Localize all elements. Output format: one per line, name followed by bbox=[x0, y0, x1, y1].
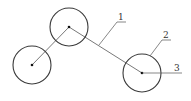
center-dot-left bbox=[31, 64, 34, 67]
label-1: 1 bbox=[118, 12, 124, 22]
linkage-diagram: 1 2 3 bbox=[0, 0, 191, 101]
label-3: 3 bbox=[174, 63, 180, 73]
leader-line-2 bbox=[150, 40, 171, 56]
label-2: 2 bbox=[163, 30, 169, 40]
leader-line-1 bbox=[99, 22, 126, 45]
link-top-right bbox=[69, 27, 142, 73]
center-dot-top bbox=[68, 26, 71, 29]
